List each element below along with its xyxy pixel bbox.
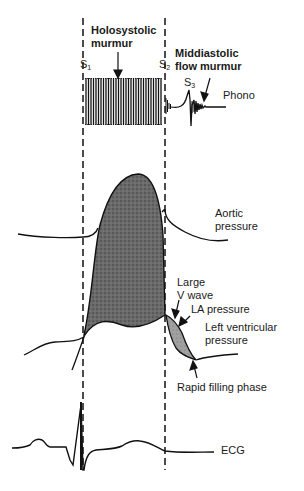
large-v-label-line1: Large: [177, 276, 213, 289]
ecg-trace: [12, 405, 214, 470]
rapid-filling-label: Rapid filling phase: [177, 381, 267, 394]
diagram-canvas: [0, 0, 304, 491]
lv-label-line1: Left ventricular: [205, 321, 277, 334]
middiastolic-label: Middiastolic flow murmur: [175, 47, 242, 73]
middiastolic-label-line2: flow murmur: [175, 60, 242, 73]
middiastolic-label-line1: Middiastolic: [175, 47, 242, 60]
lv-diastolic-pressure-curve: [196, 354, 238, 360]
s3-marker: S3: [184, 76, 195, 92]
lv-pressure-label: Left ventricular pressure: [205, 321, 277, 347]
large-v-wave-label: Large V wave: [177, 276, 213, 302]
holosystolic-murmur-waveform: [85, 78, 163, 126]
phono-diastolic-waveform: [166, 90, 226, 126]
aortic-label-line1: Aortic: [215, 207, 258, 220]
s2-marker: S2: [159, 58, 170, 74]
phono-label: Phono: [223, 89, 255, 102]
lv-systolic-pressure-area: [84, 174, 165, 336]
aortic-label-line2: pressure: [215, 220, 258, 233]
s3-marker-sub: 3: [191, 82, 195, 89]
s2-marker-sub: 2: [166, 64, 170, 71]
ecg-label: ECG: [221, 444, 245, 457]
holosystolic-label: Holosystolic murmur: [91, 24, 156, 50]
lv-label-line2: pressure: [205, 334, 277, 347]
holosystolic-label-line2: murmur: [91, 37, 156, 50]
la-pressure-label: LA pressure: [191, 303, 250, 316]
s1-marker: S1: [80, 58, 91, 74]
holosystolic-label-line1: Holosystolic: [91, 24, 156, 37]
aortic-pressure-label: Aortic pressure: [215, 207, 258, 233]
large-v-label-line2: V wave: [177, 289, 213, 302]
s1-marker-sub: 1: [87, 64, 91, 71]
la-pressure-curve: [24, 337, 84, 370]
